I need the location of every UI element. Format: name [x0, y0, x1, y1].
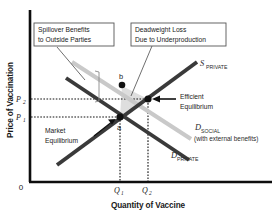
marker-efficient-equilibrium [144, 95, 151, 102]
externality-vaccine-diagram: Price of Vaccination Quantity of Vaccine… [0, 0, 279, 215]
y-axis-title: Price of Vaccination [6, 62, 15, 138]
x-tick-labels: Q 1 Q 2 [114, 186, 152, 196]
arrow-market-equilibrium [94, 119, 116, 136]
x-axis-title: Quantity of Vaccine [111, 201, 186, 210]
y-tick-p1-sub: 1 [23, 117, 26, 123]
callout-spillover-benefits: Spillover Benefits to Outside Parties [34, 23, 114, 46]
arrow-efficient-equilibrium [152, 96, 176, 103]
supply-private-sub: PRIVATE [206, 64, 228, 70]
y-tick-p2-base: P [15, 95, 21, 104]
demand-social-base: D [194, 123, 201, 132]
point-label-b: b [119, 72, 123, 81]
curve-label-supply-private: S PRIVATE [200, 59, 228, 70]
efficient-equilibrium-line1: Efficient [180, 93, 204, 100]
callout-deadweight-loss: Deadweight Loss Due to Underproduction [131, 23, 226, 46]
leader-spillover [57, 47, 85, 80]
curve-label-demand-social: D SOCIAL (with external benefits) [194, 123, 258, 143]
x-tick-q2-base: Q [142, 186, 148, 195]
annotation-efficient-equilibrium: Efficient Equilibrium [180, 93, 214, 111]
demand-social-note: (with external benefits) [194, 135, 258, 143]
y-tick-p2-sub: 2 [23, 99, 26, 105]
callout-deadweight-line1: Deadweight Loss [135, 26, 187, 34]
callout-spillover-line1: Spillover Benefits [38, 26, 90, 34]
x-tick-q1-sub: 1 [121, 190, 124, 196]
efficient-equilibrium-line2: Equilibrium [180, 103, 214, 111]
point-label-a: a [117, 123, 122, 132]
demand-social-sub: SOCIAL [201, 128, 220, 134]
curve-label-demand-private: D PRIVATE [170, 151, 199, 162]
x-tick-q1-base: Q [114, 186, 120, 195]
demand-social-curve [72, 62, 191, 139]
marker-point-a [116, 113, 123, 120]
y-tick-labels: P 2 P 1 [15, 95, 26, 123]
callout-spillover-line2: to Outside Parties [38, 36, 92, 43]
annotation-market-equilibrium: Market Equilibrium [45, 127, 79, 145]
y-tick-p1-base: P [15, 113, 21, 122]
x-tick-q2-sub: 2 [149, 190, 152, 196]
market-equilibrium-line2: Equilibrium [45, 137, 79, 145]
origin-label: 0 [19, 183, 24, 192]
demand-private-base: D [170, 151, 177, 160]
supply-private-base: S [200, 59, 205, 68]
marker-point-b [119, 82, 126, 89]
market-equilibrium-line1: Market [45, 127, 66, 134]
leader-lines [57, 46, 152, 96]
demand-private-sub: PRIVATE [177, 156, 199, 162]
callout-deadweight-line2: Due to Underproduction [135, 36, 206, 44]
leader-deadweight [131, 46, 152, 96]
